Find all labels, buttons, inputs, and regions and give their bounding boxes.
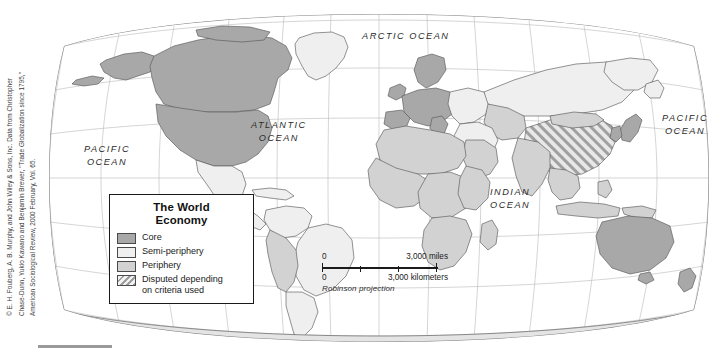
label-atlantic-ocean: ATLANTIC OCEAN: [251, 119, 307, 144]
legend-item-disputed: Disputed depending on criteria used: [117, 274, 246, 296]
scale-miles-label: 3,000 miles: [406, 252, 448, 262]
legend-title-line-1: The World: [117, 201, 246, 214]
legend-title-line-2: Economy: [117, 214, 246, 227]
label-arctic-ocean: ARCTIC OCEAN: [362, 30, 449, 43]
scale-bar-graphic: [322, 263, 448, 272]
legend-swatch-semi-periphery: [117, 247, 136, 258]
label-indian-ocean: INDIAN OCEAN: [490, 186, 530, 211]
credit-line-1: © E. H. Fouberg, A. B. Murphy, and John …: [4, 4, 16, 316]
legend-label-core: Core: [142, 232, 162, 243]
map-legend: The World Economy Core Semi-periphery Pe…: [109, 194, 254, 304]
legend-swatch-core: [117, 233, 136, 244]
world-map: ARCTIC OCEAN ATLANTIC OCEAN PACIFIC OCEA…: [46, 0, 713, 355]
legend-label-semi-periphery: Semi-periphery: [142, 246, 204, 257]
legend-item-semi-periphery: Semi-periphery: [117, 246, 246, 258]
map-scale-bar: 0 3,000 miles 0 3,000 kilometers Robinso…: [322, 252, 448, 293]
source-credit: © E. H. Fouberg, A. B. Murphy, and John …: [0, 0, 46, 355]
legend-item-core: Core: [117, 232, 246, 244]
legend-item-periphery: Periphery: [117, 260, 246, 272]
legend-label-disputed-line-2: on criteria used: [142, 285, 223, 296]
legend-label-disputed-line-1: Disputed depending: [142, 274, 223, 285]
legend-label-periphery: Periphery: [142, 260, 181, 271]
scale-kilometers-label: 3,000 kilometers: [388, 273, 448, 283]
legend-title: The World Economy: [117, 201, 246, 227]
label-pacific-ocean-east: PACIFIC OCEAN: [662, 112, 708, 137]
scale-zero-top: 0: [322, 252, 327, 262]
credit-line-2: Chase-Dunn, Yukio Kawano and Benjamin Br…: [16, 4, 28, 316]
credit-line-3: American Sociological Review, 2000 Febru…: [27, 4, 39, 316]
legend-swatch-disputed: [117, 275, 136, 286]
legend-label-disputed: Disputed depending on criteria used: [142, 274, 223, 296]
legend-swatch-periphery: [117, 261, 136, 272]
scale-zero-bottom: 0: [322, 273, 327, 283]
projection-note: Robinson projection: [322, 284, 448, 293]
label-pacific-ocean-west: PACIFIC OCEAN: [84, 143, 130, 168]
